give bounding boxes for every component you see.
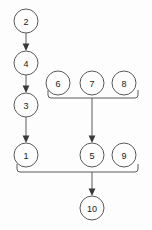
node-10-label: 10 bbox=[87, 204, 97, 214]
edge-2-to-4 bbox=[23, 33, 30, 51]
node-8[interactable]: 8 bbox=[112, 71, 136, 95]
node-1-label: 1 bbox=[23, 151, 28, 161]
node-4[interactable]: 4 bbox=[14, 51, 38, 75]
node-9[interactable]: 9 bbox=[112, 143, 136, 167]
node-8-label: 8 bbox=[121, 79, 126, 89]
node-4-label: 4 bbox=[23, 59, 28, 69]
node-9-label: 9 bbox=[121, 151, 126, 161]
edge-3-to-1 bbox=[23, 117, 30, 143]
node-3[interactable]: 3 bbox=[14, 93, 38, 117]
edge-159-to-10 bbox=[89, 172, 96, 196]
graph-canvas: 2 4 3 1 6 7 8 5 bbox=[0, 0, 152, 230]
node-7[interactable]: 7 bbox=[80, 71, 104, 95]
node-2-label: 2 bbox=[23, 17, 28, 27]
node-10[interactable]: 10 bbox=[80, 196, 104, 220]
edge-678-to-5 bbox=[89, 98, 96, 143]
edge-4-to-3 bbox=[23, 75, 30, 93]
node-6[interactable]: 6 bbox=[46, 71, 70, 95]
node-7-label: 7 bbox=[89, 79, 94, 89]
node-2[interactable]: 2 bbox=[14, 9, 38, 33]
node-3-label: 3 bbox=[23, 101, 28, 111]
node-5[interactable]: 5 bbox=[80, 143, 104, 167]
flow-diagram: 2 4 3 1 6 7 8 5 bbox=[0, 0, 152, 230]
node-1[interactable]: 1 bbox=[14, 143, 38, 167]
node-5-label: 5 bbox=[89, 151, 94, 161]
node-6-label: 6 bbox=[55, 79, 60, 89]
